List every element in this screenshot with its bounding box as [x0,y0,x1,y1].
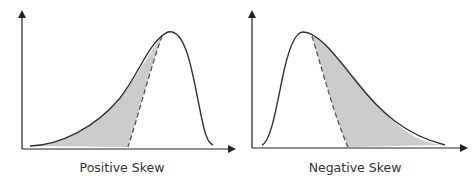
negative-skew-chart [252,14,464,148]
shaded-area [30,36,162,147]
positive-skew-chart [22,14,232,149]
positive-skew-label: Positive Skew [42,160,202,175]
negative-skew-label: Negative Skew [275,160,435,175]
skew-diagram [0,0,475,184]
